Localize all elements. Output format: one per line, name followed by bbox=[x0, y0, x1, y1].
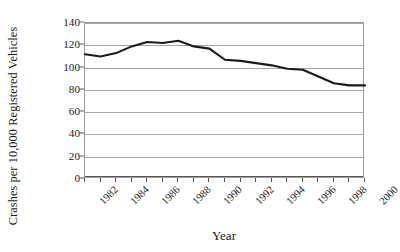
y-tick-mark-140 bbox=[80, 22, 84, 23]
y-tick-label-120: 120 bbox=[40, 38, 80, 50]
y-tick-label-40: 40 bbox=[40, 127, 80, 139]
plot-area bbox=[84, 22, 364, 178]
y-tick-label-20: 20 bbox=[40, 150, 80, 162]
x-tick-mark-1988 bbox=[177, 178, 178, 182]
x-tick-mark-1997 bbox=[317, 178, 318, 182]
x-tick-mark-1998 bbox=[333, 178, 334, 182]
series-line-crashes bbox=[85, 23, 365, 179]
y-tick-mark-20 bbox=[80, 155, 84, 156]
x-tick-label-1992: 1992 bbox=[253, 184, 276, 207]
y-axis-title: Crashes per 10,000 Registered Vehicles bbox=[0, 0, 26, 252]
x-tick-label-1996: 1996 bbox=[315, 184, 338, 207]
x-tick-label-1988: 1988 bbox=[191, 184, 214, 207]
x-tick-mark-1994 bbox=[271, 178, 272, 182]
x-tick-mark-1990 bbox=[208, 178, 209, 182]
x-tick-mark-1989 bbox=[193, 178, 194, 182]
x-tick-label-2000: 2000 bbox=[377, 184, 400, 207]
x-tick-label-1994: 1994 bbox=[284, 184, 307, 207]
x-tick-mark-1995 bbox=[286, 178, 287, 182]
x-tick-label-1984: 1984 bbox=[128, 184, 151, 207]
x-tick-mark-1991 bbox=[224, 178, 225, 182]
y-tick-label-100: 100 bbox=[40, 61, 80, 73]
y-tick-label-80: 80 bbox=[40, 83, 80, 95]
x-tick-mark-1982 bbox=[84, 178, 85, 182]
x-tick-mark-2000 bbox=[364, 178, 365, 182]
y-tick-mark-80 bbox=[80, 88, 84, 89]
x-tick-label-1998: 1998 bbox=[346, 184, 369, 207]
y-tick-label-0: 0 bbox=[40, 172, 80, 184]
x-tick-mark-1992 bbox=[240, 178, 241, 182]
y-tick-mark-60 bbox=[80, 111, 84, 112]
x-tick-mark-1985 bbox=[131, 178, 132, 182]
x-tick-label-1990: 1990 bbox=[222, 184, 245, 207]
x-tick-mark-1996 bbox=[302, 178, 303, 182]
x-tick-mark-1986 bbox=[146, 178, 147, 182]
y-tick-mark-40 bbox=[80, 133, 84, 134]
y-tick-mark-100 bbox=[80, 66, 84, 67]
x-tick-label-1986: 1986 bbox=[159, 184, 182, 207]
x-tick-label-1982: 1982 bbox=[97, 184, 120, 207]
x-tick-mark-1987 bbox=[162, 178, 163, 182]
x-tick-mark-1984 bbox=[115, 178, 116, 182]
y-tick-label-60: 60 bbox=[40, 105, 80, 117]
y-tick-label-140: 140 bbox=[40, 16, 80, 28]
x-tick-mark-1999 bbox=[348, 178, 349, 182]
x-tick-mark-1993 bbox=[255, 178, 256, 182]
x-axis-title: Year bbox=[84, 228, 364, 244]
y-tick-mark-120 bbox=[80, 44, 84, 45]
x-tick-mark-1983 bbox=[100, 178, 101, 182]
